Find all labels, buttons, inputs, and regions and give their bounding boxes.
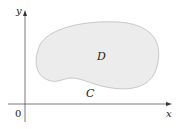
curve-label: C bbox=[86, 87, 95, 100]
y-axis-arrow-icon bbox=[23, 10, 27, 16]
x-axis-arrow-icon bbox=[166, 102, 172, 106]
y-axis-label: y bbox=[15, 5, 22, 16]
region-diagram: y x 0 D C bbox=[0, 0, 183, 129]
origin-label: 0 bbox=[15, 108, 21, 119]
region-label: D bbox=[96, 50, 106, 63]
x-axis-label: x bbox=[166, 108, 172, 119]
